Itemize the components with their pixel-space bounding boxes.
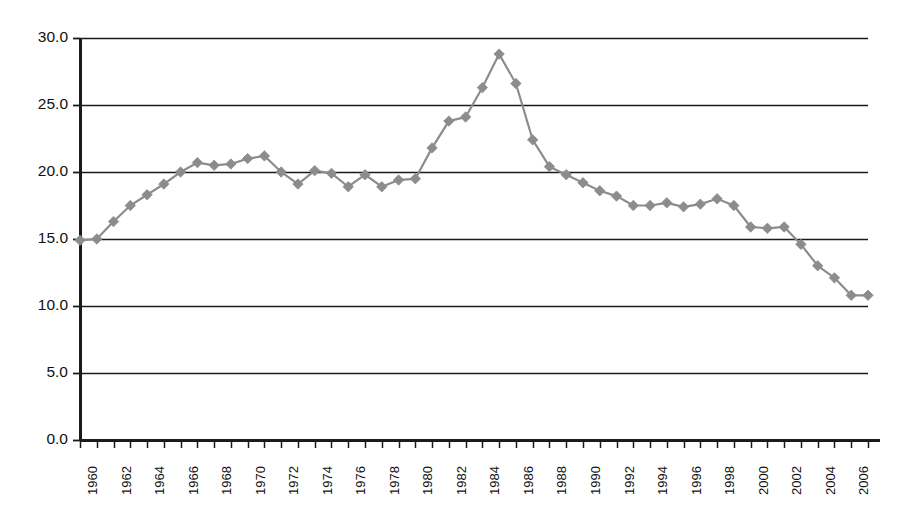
data-point-marker bbox=[678, 202, 688, 212]
data-point-marker bbox=[494, 49, 504, 59]
x-axis-tick-label: 1964 bbox=[152, 466, 167, 495]
x-axis-tick-label: 1960 bbox=[85, 466, 100, 495]
x-axis-tick-label: 2002 bbox=[789, 466, 804, 495]
x-axis-tick-label: 1980 bbox=[420, 466, 435, 495]
data-point-marker bbox=[444, 116, 454, 126]
data-point-marker bbox=[393, 175, 403, 185]
data-point-marker bbox=[75, 235, 85, 245]
y-axis-tick-label: 25.0 bbox=[12, 95, 68, 113]
data-point-markers bbox=[75, 49, 873, 301]
data-point-marker bbox=[611, 191, 621, 201]
y-axis-tick-label: 10.0 bbox=[12, 296, 68, 314]
x-axis-tick-label: 1998 bbox=[722, 466, 737, 495]
y-axis-tick-label: 30.0 bbox=[12, 28, 68, 46]
x-axis-tick-label: 1992 bbox=[622, 466, 637, 495]
x-axis-tick-label: 2004 bbox=[823, 466, 838, 495]
data-point-marker bbox=[410, 174, 420, 184]
chart-plot-area bbox=[0, 0, 901, 508]
data-point-marker bbox=[511, 78, 521, 88]
x-axis-tick-label: 1976 bbox=[353, 466, 368, 495]
data-point-marker bbox=[242, 153, 252, 163]
data-point-marker bbox=[695, 199, 705, 209]
x-axis-tick-label: 1982 bbox=[454, 466, 469, 495]
y-axis-tick-label: 0.0 bbox=[12, 430, 68, 448]
x-axis-tick-label: 1996 bbox=[689, 466, 704, 495]
y-axis-tick-label: 15.0 bbox=[12, 229, 68, 247]
data-point-marker bbox=[527, 135, 537, 145]
gridlines bbox=[80, 39, 868, 374]
x-axis-tick-label: 1972 bbox=[286, 466, 301, 495]
data-point-marker bbox=[192, 157, 202, 167]
data-point-marker bbox=[477, 82, 487, 92]
x-axis-tick-label: 1984 bbox=[487, 466, 502, 495]
data-point-marker bbox=[762, 223, 772, 233]
y-axis-tick-label: 20.0 bbox=[12, 162, 68, 180]
data-point-marker bbox=[427, 143, 437, 153]
data-point-marker bbox=[561, 169, 571, 179]
chart-container: 0.05.010.015.020.025.030.0 1960196219641… bbox=[0, 0, 901, 508]
x-axis-tick-label: 1974 bbox=[320, 466, 335, 495]
x-axis-tick-label: 1990 bbox=[588, 466, 603, 495]
data-point-marker bbox=[628, 200, 638, 210]
data-point-marker bbox=[142, 190, 152, 200]
data-point-marker bbox=[712, 194, 722, 204]
x-axis-tick-label: 1994 bbox=[655, 466, 670, 495]
x-axis-tick-label: 1968 bbox=[219, 466, 234, 495]
x-axis-tick-label: 1986 bbox=[521, 466, 536, 495]
data-point-marker bbox=[460, 112, 470, 122]
x-axis-tick-label: 1962 bbox=[119, 466, 134, 495]
data-point-marker bbox=[209, 160, 219, 170]
data-point-marker bbox=[595, 186, 605, 196]
x-axis-tick-label: 1988 bbox=[554, 466, 569, 495]
x-axis-tick-label: 1966 bbox=[186, 466, 201, 495]
data-point-marker bbox=[863, 290, 873, 300]
x-axis-tick-label: 2006 bbox=[856, 466, 871, 495]
x-axis-tick-label: 1970 bbox=[253, 466, 268, 495]
data-point-marker bbox=[544, 161, 554, 171]
y-axis-tick-label: 5.0 bbox=[12, 363, 68, 381]
data-series-line bbox=[80, 54, 868, 295]
x-axis-tick-label: 1978 bbox=[387, 466, 402, 495]
data-point-marker bbox=[645, 200, 655, 210]
data-point-marker bbox=[226, 159, 236, 169]
data-point-marker bbox=[578, 178, 588, 188]
data-point-marker bbox=[662, 198, 672, 208]
x-axis-tick-label: 2000 bbox=[756, 466, 771, 495]
